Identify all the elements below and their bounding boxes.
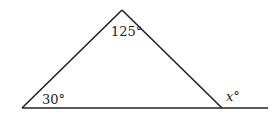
bottom-left-angle-label: 30°	[42, 92, 65, 107]
left-side	[22, 10, 122, 108]
apex-angle-label: 125°	[111, 24, 142, 39]
exterior-angle-label: x°	[226, 89, 240, 104]
triangle-diagram: 125° 30° x°	[0, 0, 280, 116]
